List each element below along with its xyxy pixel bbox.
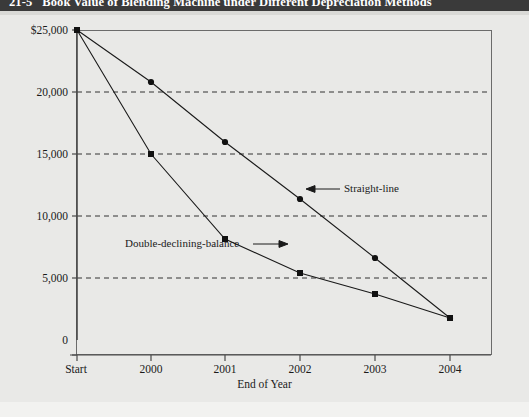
x-axis-ticks [77,355,450,361]
annotation-arrow-ddb [253,241,288,248]
exhibit-title-band: 21-5Book Value of Blending Machine under… [0,0,529,11]
exhibit-number: 21-5 [9,0,32,9]
arrow-head-left-icon [306,186,315,193]
page-bottom-strip [0,402,529,417]
annotation-arrow-straight-line [306,186,340,193]
data-point-ddb-2000 [148,151,154,157]
series-line-double-declining-balance [77,30,450,318]
exhibit-title-text: 21-5Book Value of Blending Machine under… [9,0,432,10]
data-point-ddb-2003 [372,291,378,297]
series-line-straight-line [77,30,450,318]
data-point-straight-line-2000 [148,79,154,85]
series-markers-double-declining-balance [74,27,453,321]
data-point-ddb-2001 [222,236,228,242]
data-point-straight-line-2002 [297,196,303,202]
data-point-straight-line-2001 [222,139,228,145]
data-point-straight-line-2003 [372,255,378,261]
data-point-ddb-start [74,27,80,33]
gridlines [77,92,491,278]
data-point-ddb-2002 [297,270,303,276]
chart-figure: $25,000 20,000 15,000 10,000 5,000 0 Sta… [0,15,529,402]
chart-canvas [0,15,529,402]
data-point-ddb-2004 [447,315,453,321]
arrow-head-right-icon [279,241,288,248]
series-markers-straight-line [74,27,453,321]
exhibit-title-label: Book Value of Blending Machine under Dif… [42,0,431,9]
